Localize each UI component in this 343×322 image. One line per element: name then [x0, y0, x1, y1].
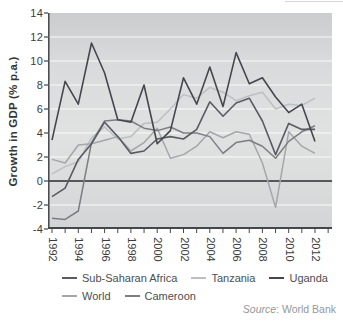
- legend-label: Uganda: [289, 272, 328, 284]
- x-tick-label: 1998: [124, 235, 137, 265]
- y-tick-label: 14: [0, 7, 43, 20]
- y-tick-label: 8: [0, 79, 43, 92]
- x-tick-label: 1994: [72, 235, 85, 265]
- chart-canvas: [48, 13, 332, 229]
- legend-label: Tanzania: [211, 272, 255, 284]
- series-line-tanzania: [52, 87, 315, 173]
- y-tick-label: 2: [0, 151, 43, 164]
- x-tick-label: 2006: [230, 235, 243, 265]
- series-line-world: [52, 128, 315, 207]
- y-tick-label: 4: [0, 127, 43, 140]
- x-tick-label: 2000: [151, 235, 164, 265]
- x-tick-label: 1992: [46, 235, 59, 265]
- y-tick-label: 10: [0, 55, 43, 68]
- legend-item-sub-saharan-africa: Sub-Saharan Africa: [62, 271, 177, 285]
- scan-artifact-line: [285, 1, 343, 2]
- line-swatch-icon: [125, 295, 140, 297]
- x-tick-label: 2012: [309, 235, 322, 265]
- y-axis-title: Growth in GDP (% p.a.): [7, 22, 22, 222]
- legend-item-cameroon: Cameroon: [125, 289, 196, 303]
- line-swatch-icon: [62, 295, 77, 297]
- legend-item-world: World: [62, 289, 111, 303]
- y-tick-label: 6: [0, 103, 43, 116]
- legend-label: Sub-Saharan Africa: [82, 272, 177, 284]
- gdp-growth-line-chart: Growth in GDP (% p.a.) Sub-Saharan Afric…: [0, 0, 343, 322]
- legend-label: Cameroon: [145, 290, 196, 302]
- source-word: Source: [243, 303, 276, 315]
- legend-item-tanzania: Tanzania: [191, 271, 255, 285]
- source-note: Source: World Bank: [243, 303, 336, 315]
- line-swatch-icon: [191, 277, 206, 279]
- plot-area: [48, 13, 332, 229]
- series-line-uganda: [52, 43, 315, 144]
- x-tick-label: 2008: [256, 235, 269, 265]
- source-text: : World Bank: [276, 303, 336, 315]
- x-tick-label: 2010: [282, 235, 295, 265]
- x-tick-label: 1996: [98, 235, 111, 265]
- y-tick-label: 0: [0, 175, 43, 188]
- legend: Sub-Saharan Africa Tanzania Uganda World…: [62, 271, 342, 303]
- y-tick-label: 12: [0, 31, 43, 44]
- x-tick-label: 2002: [177, 235, 190, 265]
- line-swatch-icon: [62, 277, 77, 279]
- y-tick-label: -4: [0, 223, 43, 236]
- line-swatch-icon: [269, 277, 284, 279]
- x-tick-label: 2004: [203, 235, 216, 265]
- y-tick-label: -2: [0, 199, 43, 212]
- legend-label: World: [82, 290, 111, 302]
- legend-item-uganda: Uganda: [269, 271, 328, 285]
